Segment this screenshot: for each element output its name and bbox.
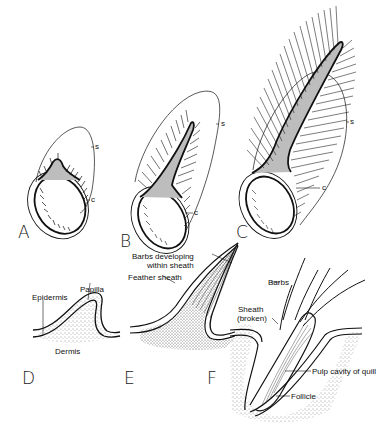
label-barbs-developing: Barbs developing [132, 252, 194, 261]
panel-b-drawing [120, 91, 220, 263]
label-follicle: Follicle [291, 392, 316, 401]
panel-d-drawing [33, 283, 120, 343]
panel-letter-d: D [22, 368, 35, 388]
panel-letter-b: B [120, 231, 131, 251]
label-a-collar: c [91, 195, 95, 204]
label-a-sheath: s [95, 142, 99, 151]
label-feather-sheath: Feather sheath [128, 273, 182, 282]
panel-letter-e: E [124, 368, 135, 388]
panel-letter-c: C [236, 222, 248, 242]
panel-c-drawing [228, 6, 356, 249]
label-sheath-broken: (broken) [237, 314, 267, 323]
label-b-sheath: s [221, 119, 225, 128]
label-c-collar: c [322, 183, 326, 192]
label-pulp-cavity: Pulp cavity of quill [312, 367, 376, 376]
panel-letter-a: A [18, 222, 30, 242]
label-c-sheath: s [350, 117, 354, 126]
label-papilla: Papilla [80, 285, 104, 294]
label-dermis: Dermis [55, 347, 80, 356]
label-barbs: Barbs [268, 278, 289, 287]
label-b-collar: c [194, 208, 198, 217]
label-within-sheath: within sheath [147, 261, 194, 270]
panel-letter-f: F [207, 368, 217, 388]
label-sheath: Sheath [238, 305, 263, 314]
label-epidermis: Epidermis [32, 293, 68, 302]
